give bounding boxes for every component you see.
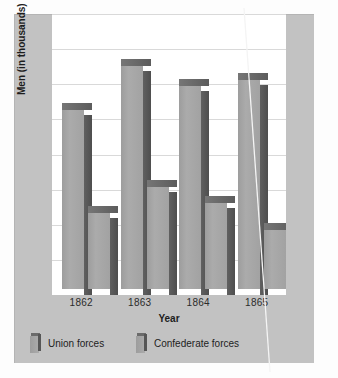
y-axis-title: Men (in thousands) bbox=[16, 0, 27, 95]
bar-side-face bbox=[286, 235, 287, 295]
x-tick-label: 1864 bbox=[169, 297, 228, 308]
bar-top-face bbox=[264, 223, 287, 230]
bar-front-face bbox=[205, 202, 227, 289]
bar-front-face bbox=[88, 212, 110, 289]
bar bbox=[121, 65, 143, 289]
bar-front-face bbox=[238, 79, 260, 289]
bar bbox=[147, 186, 169, 289]
bar bbox=[179, 85, 201, 289]
bar-group bbox=[52, 14, 111, 295]
x-tick-label: 1863 bbox=[111, 297, 170, 308]
bar-group bbox=[228, 14, 287, 295]
bar-top-face bbox=[121, 59, 151, 66]
bar-front-face bbox=[179, 85, 201, 289]
bar-front-face bbox=[147, 186, 169, 289]
chart-figure: 1862186318641865 Year Men (in thousands)… bbox=[0, 0, 338, 378]
chart-legend: Union forcesConfederate forces bbox=[18, 330, 310, 356]
legend-label: Confederate forces bbox=[154, 338, 239, 349]
bar-series-container bbox=[52, 14, 286, 295]
x-tick-label: 1865 bbox=[228, 297, 287, 308]
plot-area bbox=[52, 14, 286, 295]
legend-label: Union forces bbox=[48, 338, 104, 349]
x-axis-title: Year bbox=[52, 313, 286, 324]
bar bbox=[205, 202, 227, 289]
bar bbox=[62, 109, 84, 289]
bar-top-face bbox=[179, 79, 209, 86]
legend-item[interactable]: Confederate forces bbox=[136, 330, 239, 356]
bar-front-face bbox=[121, 65, 143, 289]
bar-front-face bbox=[264, 229, 286, 289]
bar-swatch-icon bbox=[30, 333, 41, 353]
bar-group bbox=[111, 14, 170, 295]
bar-group bbox=[169, 14, 228, 295]
bar-top-face bbox=[62, 103, 92, 110]
bar bbox=[264, 229, 286, 289]
x-axis-tick-labels: 1862186318641865 bbox=[52, 297, 286, 313]
bar-top-face bbox=[238, 73, 268, 80]
bar bbox=[238, 79, 260, 289]
bar-swatch-icon bbox=[136, 333, 147, 353]
bar bbox=[88, 212, 110, 289]
x-tick-label: 1862 bbox=[52, 297, 111, 308]
legend-item[interactable]: Union forces bbox=[30, 330, 104, 356]
bar-front-face bbox=[62, 109, 84, 289]
